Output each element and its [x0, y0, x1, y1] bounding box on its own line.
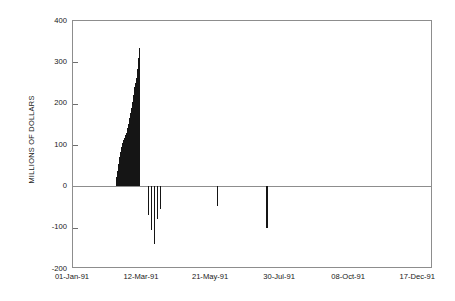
y-axis-tick [73, 104, 78, 105]
chart-figure: MILLIONS OF DOLLARS 4003002001000-100-20… [0, 0, 455, 301]
y-axis-tick [73, 62, 78, 63]
y-axis-tick-label: 0 [7, 181, 67, 190]
bar [217, 186, 218, 206]
zero-line [73, 186, 431, 187]
y-axis-tick [73, 145, 78, 146]
bar [266, 186, 267, 227]
y-axis-tick-label: -100 [7, 222, 67, 231]
bar [154, 186, 155, 244]
bar [157, 186, 158, 219]
bar [160, 186, 161, 209]
bar [151, 186, 152, 229]
y-axis-tick-label: 400 [7, 16, 67, 25]
bar [139, 48, 140, 186]
x-axis-tick-label: 17-Dec-91 [372, 272, 455, 281]
y-axis-tick-label: 300 [7, 57, 67, 66]
plot-area [72, 20, 432, 268]
y-axis-tick [73, 228, 78, 229]
y-axis-tick-label: 100 [7, 140, 67, 149]
bar [148, 186, 149, 215]
y-axis-tick-label: 200 [7, 98, 67, 107]
